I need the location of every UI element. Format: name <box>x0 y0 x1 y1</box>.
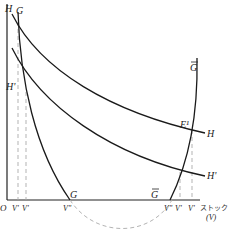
curve-h <box>12 14 205 133</box>
x-tick-2: V' <box>22 204 29 213</box>
x-axis-label: ストック <box>200 204 228 212</box>
label-g-bar-top: G <box>190 62 197 73</box>
label-h-end: H <box>206 128 215 139</box>
x-tick-4: V'' <box>164 204 173 213</box>
label-h-top: H <box>4 3 13 14</box>
x-tick-6: V' <box>188 204 195 213</box>
dashed-arc <box>70 200 172 229</box>
label-g-bar-bottom: G <box>151 189 158 200</box>
x-axis-unit: (V) <box>206 213 217 222</box>
label-g-top: G <box>16 5 23 16</box>
label-h-prime-end: H' <box>206 170 217 181</box>
label-g-bottom: G <box>70 189 77 200</box>
x-tick-1: V' <box>12 204 19 213</box>
x-tick-3: V'' <box>63 204 72 213</box>
x-tick-5: V' <box>175 204 182 213</box>
label-h-prime-start: H' <box>5 81 16 92</box>
origin-label: O <box>0 203 7 213</box>
stock-diagram: H G H' H H' G E¹ G G O V' V' V'' V'' V' … <box>0 0 228 234</box>
curve-h-prime <box>12 48 205 176</box>
label-e1: E¹ <box>179 119 189 130</box>
